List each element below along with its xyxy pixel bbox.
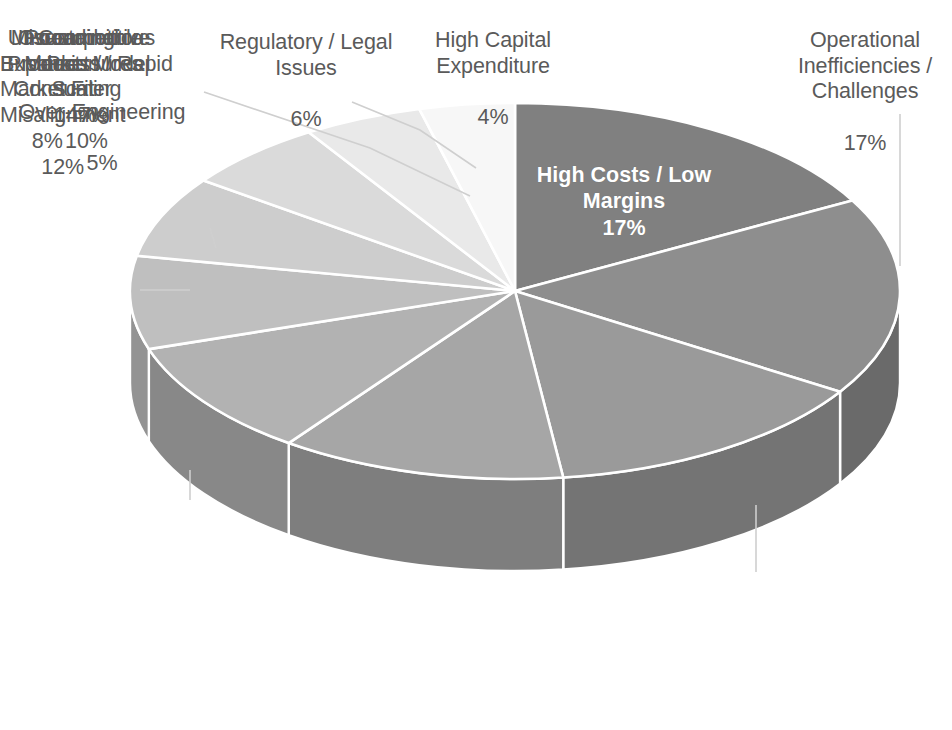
callout-unsustainable-business-model: Unsustainable Business Model 14% (0, 0, 150, 155)
slice-label-high-costs-category: High Costs / Low Margins (537, 163, 711, 213)
pie-chart-figure: High Costs / Low Margins 17% Operational… (0, 0, 952, 730)
callout-operational-inefficiencies-category: Operational Inefficiencies / Challenges (778, 28, 952, 105)
callout-high-capital-expenditure-category: High Capital Expenditure (403, 28, 583, 80)
callout-unsustainable-business-model-category: Unsustainable Business Model (0, 26, 150, 78)
callout-operational-inefficiencies: Operational Inefficiencies / Challenges … (778, 2, 952, 183)
callout-regulatory-legal-issues-category: Regulatory / Legal Issues (216, 30, 396, 82)
slice-label-high-costs-percent: 17% (602, 216, 645, 240)
callout-regulatory-legal-issues-percent: 6% (216, 107, 396, 133)
callout-misreading-market-percent: 12% (0, 155, 125, 181)
callout-regulatory-legal-issues: Regulatory / Legal Issues 6% (216, 4, 396, 159)
callout-high-capital-expenditure-percent: 4% (403, 105, 583, 131)
callout-unsustainable-business-model-percent: 14% (0, 103, 150, 129)
callout-operational-inefficiencies-percent: 17% (778, 131, 952, 157)
callout-high-capital-expenditure: High Capital Expenditure 4% (403, 2, 583, 157)
